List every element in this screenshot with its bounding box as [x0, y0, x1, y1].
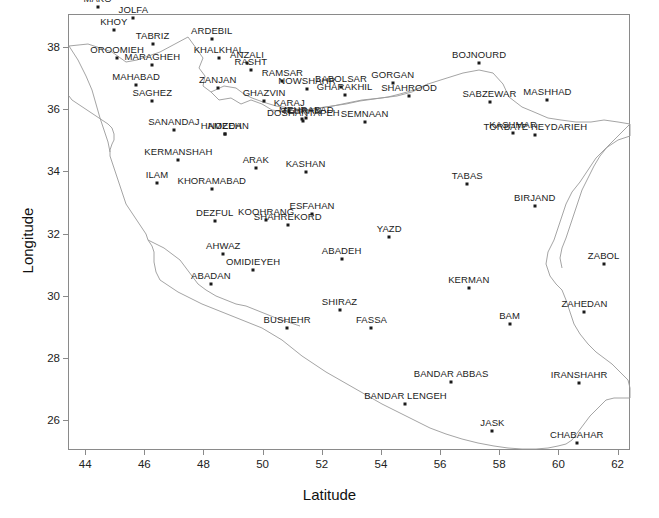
station-marker: [450, 381, 453, 384]
station-label: BUSHEHR: [264, 315, 311, 325]
station-label: SHIRAZ: [322, 297, 357, 307]
station-marker: [305, 117, 308, 120]
station-marker: [223, 132, 226, 135]
station-marker: [304, 170, 307, 173]
station-marker: [467, 287, 470, 290]
y-tick-mark: [63, 296, 68, 297]
station-label: ZAHEDAN: [561, 299, 607, 309]
station-label: KHOY: [100, 17, 127, 27]
station-label: FASSA: [356, 315, 387, 325]
station-label: ZANJAN: [199, 75, 237, 85]
station-marker: [343, 93, 346, 96]
station-label: KHORAMABAD: [177, 176, 246, 186]
x-tick-mark: [263, 450, 264, 455]
station-label: BOJNOURD: [452, 50, 506, 60]
station-label: SEMNAAN: [341, 109, 389, 119]
y-tick-mark: [63, 47, 68, 48]
station-marker: [254, 167, 257, 170]
station-marker: [534, 133, 537, 136]
station-label: IRANSHAHR: [551, 370, 608, 380]
station-label: BANDAR ABBAS: [414, 369, 489, 379]
x-tick-mark: [440, 450, 441, 455]
x-tick-mark: [558, 450, 559, 455]
station-label: TABRIZ: [136, 31, 170, 41]
station-label: CHABAHAR: [550, 430, 604, 440]
station-marker: [370, 326, 373, 329]
station-label: NOZEH: [208, 121, 242, 131]
station-label: ARDEBIL: [191, 26, 232, 36]
y-tick-mark: [63, 109, 68, 110]
station-marker: [512, 131, 515, 134]
x-tick-label: 58: [493, 458, 506, 470]
x-tick-mark: [618, 450, 619, 455]
station-label: ZABOL: [588, 251, 620, 261]
station-marker: [363, 121, 366, 124]
y-tick-mark: [63, 358, 68, 359]
x-axis-title: Latitude: [0, 486, 659, 503]
station-marker: [466, 182, 469, 185]
station-marker: [209, 283, 212, 286]
station-label: MEHRABAD: [279, 105, 334, 115]
y-tick-label: 34: [34, 165, 60, 177]
station-label: BANDAR LENGEH: [364, 391, 447, 401]
station-marker: [112, 28, 115, 31]
station-label: JOLFA: [119, 5, 149, 15]
station-label: KASHAN: [286, 159, 326, 169]
station-label: ARAK: [243, 155, 269, 165]
x-tick-label: 56: [434, 458, 447, 470]
station-label: GORGAN: [371, 70, 414, 80]
station-marker: [263, 100, 266, 103]
station-marker: [249, 69, 252, 72]
station-marker: [151, 64, 154, 67]
y-tick-label: 30: [34, 290, 60, 302]
station-marker: [172, 128, 175, 131]
station-marker: [488, 101, 491, 104]
station-marker: [311, 213, 314, 216]
x-tick-mark: [499, 450, 500, 455]
station-marker: [135, 84, 138, 87]
station-label: DEZFUL: [196, 208, 234, 218]
station-marker: [340, 258, 343, 261]
station-label: ILAM: [146, 170, 169, 180]
station-label: SAGHEZ: [132, 88, 172, 98]
station-label: BIRJAND: [514, 193, 555, 203]
x-tick-label: 44: [79, 458, 92, 470]
y-tick-mark: [63, 171, 68, 172]
map-figure: 4446485052545658606226283032343638 MAKOP…: [0, 0, 659, 518]
station-label: SABZEWAR: [463, 89, 517, 99]
station-marker: [252, 268, 255, 271]
station-marker: [302, 120, 305, 123]
station-marker: [210, 188, 213, 191]
x-tick-label: 52: [315, 458, 328, 470]
station-marker: [305, 87, 308, 90]
station-marker: [96, 5, 99, 8]
station-marker: [478, 62, 481, 65]
station-label: ESFAHAN: [289, 201, 334, 211]
station-marker: [578, 382, 581, 385]
station-marker: [116, 56, 119, 59]
station-marker: [491, 430, 494, 433]
station-marker: [217, 57, 220, 60]
station-marker: [286, 326, 289, 329]
station-marker: [177, 159, 180, 162]
station-label: MARAGHEH: [124, 52, 180, 62]
station-label: RASHT: [234, 57, 267, 67]
x-tick-label: 62: [611, 458, 624, 470]
station-label: GHARAKHIL: [317, 82, 373, 92]
x-tick-mark: [85, 450, 86, 455]
station-marker: [286, 223, 289, 226]
station-label: KERMANSHAH: [144, 147, 212, 157]
x-tick-label: 60: [552, 458, 565, 470]
station-marker: [210, 37, 213, 40]
station-label: BAM: [499, 311, 520, 321]
station-marker: [222, 253, 225, 256]
x-tick-label: 54: [375, 458, 388, 470]
x-tick-mark: [381, 450, 382, 455]
station-label: OMIDIEYEH: [226, 257, 280, 267]
y-tick-label: 28: [34, 352, 60, 364]
station-marker: [338, 309, 341, 312]
station-marker: [602, 262, 605, 265]
station-label: MASHHAD: [523, 87, 571, 97]
station-label: SHAHROOD: [381, 83, 437, 93]
station-label: KERMAN: [448, 275, 489, 285]
